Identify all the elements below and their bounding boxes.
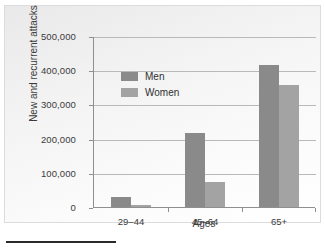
y-tick-label: 300,000: [6, 99, 76, 110]
bar-women-2: [279, 85, 299, 207]
bar-men-2: [259, 65, 279, 207]
chart-legend: Men Women: [121, 70, 179, 102]
bar-women-1: [205, 182, 225, 207]
gridline: [94, 37, 316, 38]
legend-swatch-men-icon: [121, 72, 138, 81]
bar-men-0: [111, 197, 131, 207]
y-tick-mark: [89, 208, 93, 209]
legend-item-women: Women: [121, 86, 179, 99]
legend-label-women: Women: [145, 87, 179, 98]
x-axis-title: Ages: [93, 218, 315, 229]
x-tick-mark: [168, 208, 169, 212]
y-tick-label: 500,000: [6, 31, 76, 42]
y-tick-label: 0: [6, 202, 76, 213]
bar-women-0: [131, 205, 151, 207]
legend-label-men: Men: [145, 71, 164, 82]
bar-men-1: [185, 133, 205, 207]
x-tick-mark: [315, 208, 316, 212]
y-tick-label: 100,000: [6, 168, 76, 179]
y-axis-title: New and recurrent attacks: [28, 0, 39, 154]
chart-panel: New and recurrent attacks 0100,000200,00…: [4, 5, 321, 223]
x-tick-mark: [242, 208, 243, 212]
legend-item-men: Men: [121, 70, 179, 83]
y-tick-label: 200,000: [6, 134, 76, 145]
y-tick-label: 400,000: [6, 65, 76, 76]
legend-swatch-women-icon: [121, 88, 138, 97]
figure-container: New and recurrent attacks 0100,000200,00…: [0, 0, 325, 251]
plot-area: 29–4445–6465+: [93, 37, 315, 208]
caption-divider: [6, 241, 116, 243]
